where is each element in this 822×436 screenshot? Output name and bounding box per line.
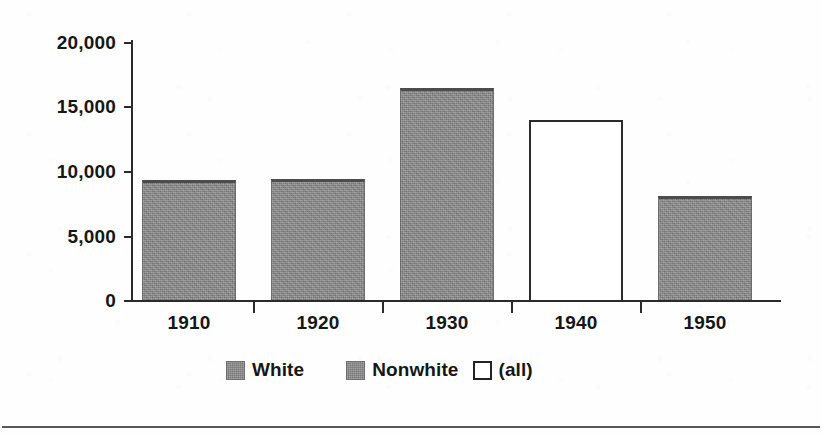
- page-bottom-rule: [2, 426, 820, 428]
- x-axis-label-1930: 1930: [387, 312, 507, 334]
- legend-swatch-all-icon: [473, 361, 492, 380]
- y-axis-label-10000: 10,000: [8, 161, 116, 183]
- x-axis-tick-4: [640, 302, 642, 313]
- x-axis-label-1950: 1950: [645, 312, 765, 334]
- x-axis-label-1920: 1920: [258, 312, 378, 334]
- y-axis-tick-20000: [124, 42, 132, 44]
- bar-1910: [142, 180, 236, 301]
- y-axis-label-5000: 5,000: [8, 226, 116, 248]
- x-axis-tick-2: [382, 302, 384, 313]
- y-axis-label-15000: 15,000: [8, 96, 116, 118]
- legend-item-all: (all): [473, 359, 533, 381]
- x-axis-label-1940: 1940: [516, 312, 636, 334]
- plot-area: 20,000 15,000 10,000 5,000 0 1: [0, 0, 822, 436]
- y-axis-tick-15000: [124, 106, 132, 108]
- legend-label-white: White: [252, 359, 304, 381]
- legend-item-white: White: [226, 359, 304, 381]
- x-axis-label-1910: 1910: [129, 312, 249, 334]
- bar-chart-figure: 20,000 15,000 10,000 5,000 0 1: [0, 0, 822, 436]
- bar-1940: [529, 120, 623, 301]
- x-axis-tick-1: [253, 302, 255, 313]
- y-axis-label-0: 0: [8, 290, 116, 312]
- legend-swatch-nonwhite-icon: [346, 361, 365, 380]
- bar-1920: [271, 179, 365, 301]
- chart-legend: White Nonwhite (all): [226, 357, 533, 383]
- y-axis-tick-10000: [124, 171, 132, 173]
- bar-1950: [658, 196, 752, 301]
- bar-1930: [400, 88, 494, 301]
- x-axis-line: [124, 300, 781, 302]
- y-axis-tick-5000: [124, 236, 132, 238]
- legend-item-nonwhite: Nonwhite: [346, 359, 458, 381]
- legend-label-all: (all): [499, 359, 533, 381]
- legend-label-nonwhite: Nonwhite: [372, 359, 458, 381]
- y-axis-label-20000: 20,000: [8, 32, 116, 54]
- legend-swatch-white-icon: [226, 361, 245, 380]
- x-axis-tick-3: [511, 302, 513, 313]
